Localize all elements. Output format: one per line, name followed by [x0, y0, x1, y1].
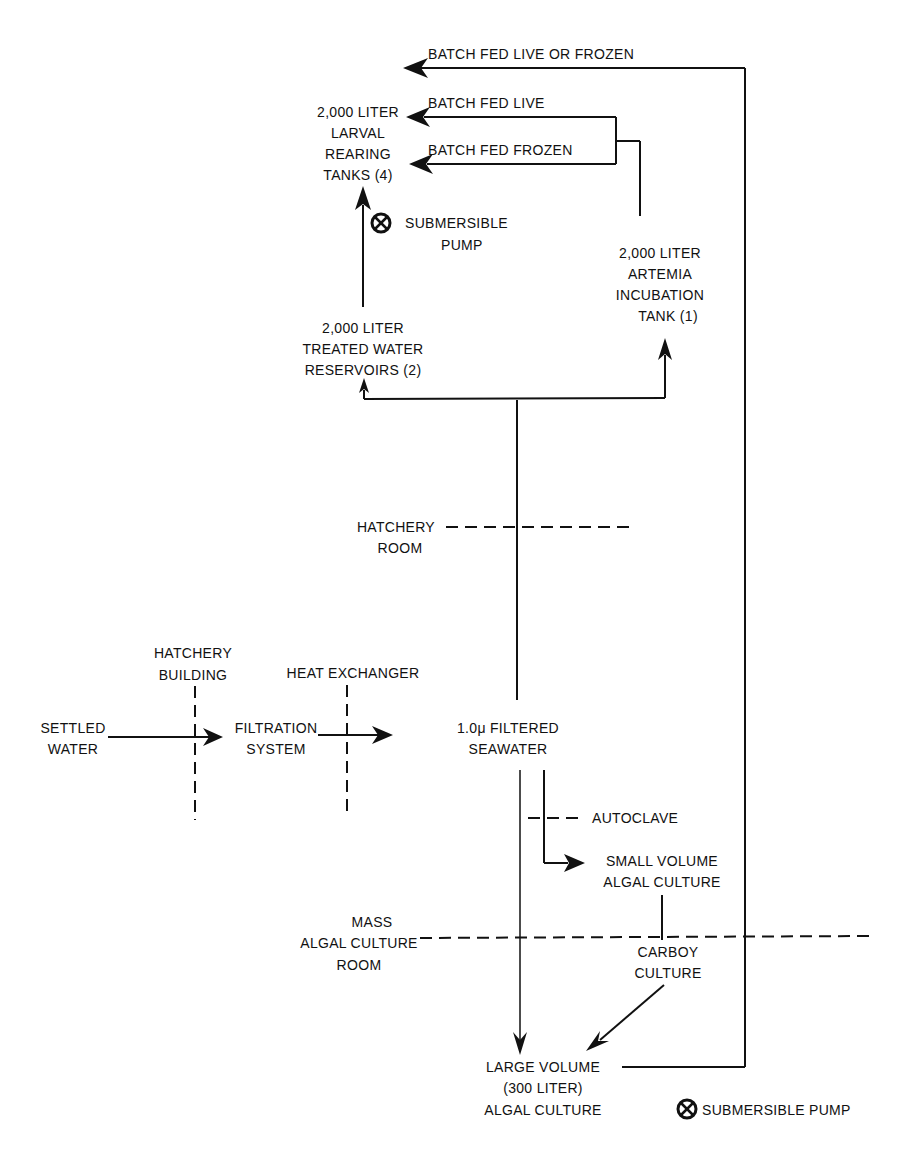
svg-text:ALGAL CULTURE: ALGAL CULTURE — [300, 935, 418, 951]
svg-text:ROOM: ROOM — [337, 957, 382, 973]
hatchery-flow-diagram: BATCH FED LIVE OR FROZEN BATCH FED LIVE … — [0, 0, 907, 1165]
svg-text:ALGAL CULTURE: ALGAL CULTURE — [603, 874, 721, 890]
edge-large-culture-return — [622, 68, 745, 1067]
node-artemia-incubation-tank: 2,000 LITER ARTEMIA INCUBATION TANK (1) — [616, 245, 704, 324]
svg-text:HATCHERY: HATCHERY — [154, 645, 232, 661]
svg-text:SETTLED: SETTLED — [40, 720, 105, 736]
svg-text:2,000 LITER: 2,000 LITER — [322, 320, 404, 336]
node-filtered-seawater: 1.0μ FILTERED SEAWATER — [457, 720, 559, 757]
svg-text:INCUBATION: INCUBATION — [616, 287, 704, 303]
svg-text:LARVAL: LARVAL — [331, 125, 385, 141]
svg-text:ROOM: ROOM — [378, 540, 423, 556]
svg-text:SYSTEM: SYSTEM — [246, 741, 305, 757]
svg-text:ALGAL CULTURE: ALGAL CULTURE — [484, 1102, 602, 1118]
node-carboy-culture: CARBOY CULTURE — [634, 944, 701, 981]
boundary-hatchery-room: HATCHERY ROOM — [357, 519, 630, 556]
node-large-volume-algal-culture: LARGE VOLUME (300 LITER) ALGAL CULTURE — [484, 1059, 602, 1118]
svg-text:MASS: MASS — [352, 914, 393, 930]
svg-text:LARGE VOLUME: LARGE VOLUME — [486, 1059, 600, 1075]
boundary-hatchery-building: HATCHERY BUILDING — [154, 645, 232, 820]
boundary-mass-algal-culture-room: MASS ALGAL CULTURE ROOM — [300, 914, 870, 973]
upper-submersible-pump: SUBMERSIBLE PUMP — [372, 214, 508, 253]
label-batch-fed-live-or-frozen: BATCH FED LIVE OR FROZEN — [428, 46, 634, 62]
edge-seawater-to-small-culture — [544, 770, 585, 872]
svg-text:TANKS (4): TANKS (4) — [323, 167, 392, 183]
label-upper-pump: SUBMERSIBLE — [405, 215, 508, 231]
svg-text:AUTOCLAVE: AUTOCLAVE — [592, 810, 678, 826]
svg-text:HEAT EXCHANGER: HEAT EXCHANGER — [287, 665, 420, 681]
svg-text:WATER: WATER — [48, 741, 99, 757]
node-larval-rearing-tanks: 2,000 LITER LARVAL REARING TANKS (4) — [317, 104, 399, 183]
node-filtration-system: FILTRATION SYSTEM — [235, 720, 318, 757]
svg-text:CARBOY: CARBOY — [638, 944, 699, 960]
edge-batch-fed-live-or-frozen: BATCH FED LIVE OR FROZEN — [403, 46, 745, 78]
label-batch-fed-frozen: BATCH FED FROZEN — [428, 142, 573, 158]
svg-text:FILTRATION: FILTRATION — [235, 720, 318, 736]
label-lower-pump: SUBMERSIBLE PUMP — [702, 1102, 851, 1118]
edge-carboy-to-large — [586, 985, 664, 1051]
svg-text:BUILDING: BUILDING — [159, 667, 228, 683]
label-batch-fed-live: BATCH FED LIVE — [428, 95, 545, 111]
node-small-volume-algal-culture: SMALL VOLUME ALGAL CULTURE — [603, 853, 721, 890]
svg-text:2,000 LITER: 2,000 LITER — [317, 104, 399, 120]
edge-filtration-to-seawater — [318, 726, 393, 744]
edge-batch-fed-live: BATCH FED LIVE — [406, 95, 616, 127]
svg-text:PUMP: PUMP — [441, 237, 483, 253]
node-settled-water: SETTLED WATER — [40, 720, 105, 757]
svg-text:1.0μ FILTERED: 1.0μ FILTERED — [457, 720, 559, 736]
edge-batch-fed-frozen: BATCH FED FROZEN — [409, 142, 616, 174]
svg-text:TANK (1): TANK (1) — [638, 308, 698, 324]
boundary-heat-exchanger: HEAT EXCHANGER — [287, 665, 420, 815]
edge-settled-to-filtration — [108, 728, 223, 746]
svg-text:SEAWATER: SEAWATER — [469, 741, 548, 757]
edge-artemia-to-larval — [616, 117, 640, 216]
svg-text:RESERVOIRS (2): RESERVOIRS (2) — [305, 362, 422, 378]
svg-text:ARTEMIA: ARTEMIA — [628, 266, 692, 282]
svg-text:2,000 LITER: 2,000 LITER — [619, 245, 701, 261]
svg-text:CULTURE: CULTURE — [634, 965, 701, 981]
svg-text:TREATED WATER: TREATED WATER — [302, 341, 423, 357]
svg-text:(300 LITER): (300 LITER) — [503, 1080, 583, 1096]
svg-text:SMALL VOLUME: SMALL VOLUME — [606, 853, 718, 869]
edge-reservoirs-to-larval — [355, 186, 371, 307]
edge-seawater-to-large-culture — [513, 770, 527, 1055]
lower-submersible-pump: SUBMERSIBLE PUMP — [678, 1100, 851, 1118]
svg-text:HATCHERY: HATCHERY — [357, 519, 435, 535]
node-treated-water-reservoirs: 2,000 LITER TREATED WATER RESERVOIRS (2) — [302, 320, 423, 378]
svg-text:REARING: REARING — [325, 146, 391, 162]
boundary-autoclave: AUTOCLAVE — [528, 810, 678, 826]
